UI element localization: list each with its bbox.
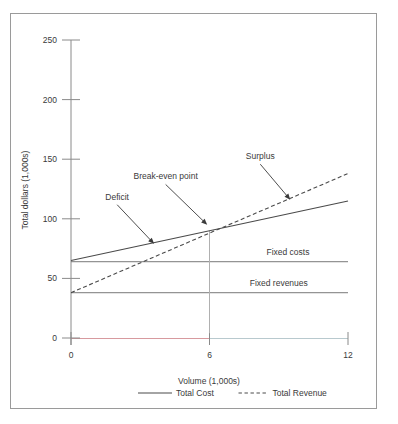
legend-label: Total Revenue	[273, 388, 328, 398]
inline-series-labels: Fixed costsFixed revenues	[250, 247, 310, 288]
annotation-arrow-shaft	[117, 205, 152, 243]
break-even-chart-figure: 050100150200250 0612 Fixed costsFixed re…	[0, 0, 398, 424]
x-tick-label: 12	[343, 350, 353, 360]
annotation-arrow-shaft	[166, 184, 206, 223]
y-tick-label: 0	[52, 333, 57, 343]
annotation-label: Surplus	[246, 151, 275, 161]
annotation-label: Break-even point	[134, 171, 199, 181]
chart-annotations: DeficitBreak-even pointSurplus	[105, 151, 290, 244]
x-axis-title: Volume (1,000s)	[178, 376, 240, 386]
y-axis-title: Total dollars (1,000s)	[20, 150, 30, 229]
x-tick-label: 0	[69, 350, 74, 360]
annotation-label: Deficit	[105, 192, 129, 202]
annotation-arrow-shaft	[260, 164, 289, 198]
x-axis-tick-labels: 0612	[69, 350, 353, 360]
y-tick-label: 100	[43, 214, 57, 224]
chart-canvas: 050100150200250 0612 Fixed costsFixed re…	[0, 0, 398, 424]
y-tick-label: 250	[43, 35, 57, 45]
inline-label: Fixed revenues	[250, 278, 308, 288]
y-tick-label: 150	[43, 154, 57, 164]
x-tick-label: 6	[207, 350, 212, 360]
y-tick-label: 50	[48, 273, 58, 283]
y-tick-label: 200	[43, 95, 57, 105]
inline-label: Fixed costs	[266, 247, 309, 257]
chart-legend: Total CostTotal Revenue	[138, 388, 327, 398]
legend-label: Total Cost	[176, 388, 214, 398]
y-axis-tick-labels: 050100150200250	[43, 35, 57, 343]
